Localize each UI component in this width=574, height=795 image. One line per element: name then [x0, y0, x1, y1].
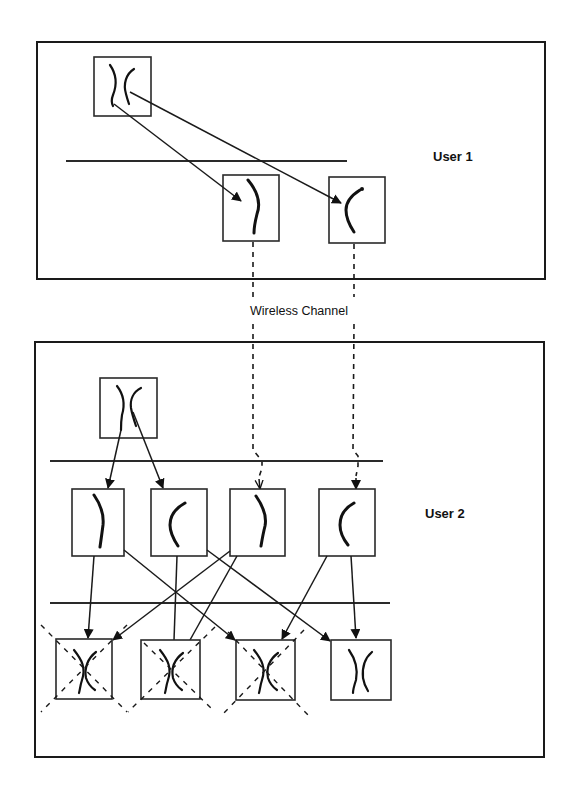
user2-row3-box-4 — [331, 640, 391, 700]
user1-arrow-to-child-1 — [114, 104, 241, 201]
user1-child-node-2 — [329, 177, 385, 243]
user1-child-box-2 — [329, 177, 385, 243]
user1-label: User 1 — [433, 149, 473, 164]
user2-row2-node-1 — [72, 489, 124, 556]
user2-row3-node-3-crossed — [222, 630, 308, 715]
arrow-r2n1-to-r3n1 — [88, 556, 94, 638]
user2-parent-box — [100, 378, 157, 438]
channel-dashed-line-2-bottom — [353, 324, 358, 476]
user2-row2-node-3 — [230, 489, 285, 556]
arrow-r2n4-to-r3n3 — [282, 556, 327, 639]
user2-label: User 2 — [425, 506, 465, 521]
arrow-r2n1-to-r3n3 — [124, 550, 235, 640]
chromosome-dot-icon — [360, 187, 364, 191]
wireless-channel-label: Wireless Channel — [250, 304, 348, 318]
user1-child-node-1 — [223, 175, 279, 241]
user1-panel: User 1 — [37, 42, 545, 279]
user1-parent-node — [94, 57, 151, 116]
user2-panel: User 2 — [35, 342, 544, 757]
user2-row2-node-4 — [319, 489, 375, 556]
line-r2n3-to-r3n2 — [190, 556, 237, 640]
arrow-r2n2-to-r3n4 — [207, 550, 330, 641]
user2-row3-node-4 — [331, 640, 391, 700]
arrow-r2n3-to-r3n1 — [113, 551, 230, 640]
user2-parent-node — [100, 378, 157, 438]
arrow-r2n4-to-r3n4 — [351, 556, 356, 638]
channel-dashed-line-1-bottom — [253, 324, 262, 477]
user2-row3-node-1-crossed — [41, 625, 127, 712]
genetic-crossover-diagram: User 1 Wireless Channel — [0, 0, 574, 795]
channel-arrowhead-1 — [259, 479, 260, 489]
user2-row3-node-2-crossed — [128, 627, 215, 712]
line-r2n2-to-r3n2 — [174, 556, 177, 640]
user2-row2-node-2 — [151, 489, 207, 556]
user1-parent-box — [94, 57, 151, 116]
